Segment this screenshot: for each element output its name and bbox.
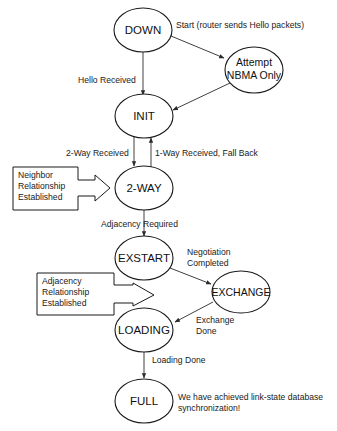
edge-exstart-to-exchange — [170, 268, 211, 284]
callout-adjacency-text-1: Adjacency — [42, 276, 82, 286]
state-attempt-label-2: NBMA Only — [227, 69, 282, 81]
transition-one-way-fallback-label: 1-Way Received, Fall Back — [155, 148, 259, 158]
transition-loading-done-label: Loading Done — [152, 355, 206, 365]
state-two-way-label: 2-WAY — [126, 182, 161, 194]
transition-exchange-done-label-1: Exchange — [196, 315, 234, 325]
final-note-line-2: synchronization! — [178, 403, 240, 413]
callout-neighbor-text-1: Neighbor — [18, 170, 53, 180]
transition-start-label: Start (router sends Hello packets) — [176, 20, 304, 30]
state-loading-label: LOADING — [118, 324, 170, 336]
transition-adjacency-required-label: Adjacency Required — [101, 219, 178, 229]
transition-negotiation-label-2: Completed — [187, 258, 229, 268]
ospf-state-diagram: DOWN Attempt NBMA Only INIT 2-WAY EXSTAR… — [0, 0, 337, 431]
state-init-label: INIT — [133, 110, 155, 122]
state-down-label: DOWN — [125, 24, 161, 36]
transition-hello-received-label: Hello Received — [78, 75, 136, 85]
final-note-line-1: We have achieved link-state database — [178, 392, 323, 402]
state-exstart-label: EXSTART — [118, 252, 170, 264]
callout-neighbor-text-3: Established — [18, 192, 63, 202]
edge-down-to-attempt — [171, 36, 224, 58]
transition-exchange-done-label-2: Done — [196, 326, 217, 336]
callout-adjacency-text-2: Relationship — [42, 287, 90, 297]
edge-attempt-to-init — [173, 83, 230, 110]
transition-two-way-received-label: 2-Way Received — [66, 148, 129, 158]
state-attempt-label-1: Attempt — [236, 56, 272, 68]
state-exchange-label: EXCHANGE — [212, 286, 271, 298]
state-full-label: FULL — [130, 395, 159, 407]
transition-negotiation-label-1: Negotiation — [187, 247, 231, 257]
callout-neighbor-text-2: Relationship — [18, 181, 66, 191]
callout-adjacency-text-3: Established — [42, 298, 87, 308]
